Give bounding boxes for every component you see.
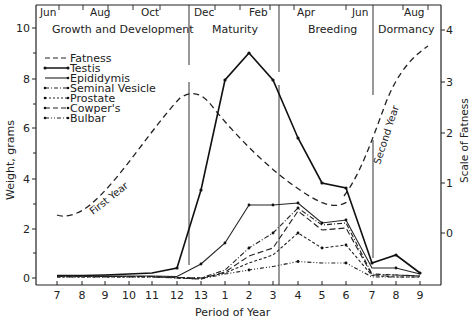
y-axis-label: Weight, grams [4,120,17,200]
phase-label-breeding: Breeding [308,23,357,36]
month-label: Feb [249,6,268,18]
x-tick: 7 [54,289,61,302]
y-tick: 6 [23,122,30,135]
x-tick: 7 [369,289,376,302]
x-tick: 3 [270,289,277,302]
chart: Jun Aug Oct Dec Feb Apr Jun Aug Growth a… [0,0,473,320]
x-tick: 9 [102,289,109,302]
month-label: Aug [404,6,425,18]
phase-dividers [189,5,373,285]
y-tick: 2 [23,223,30,236]
x-tick: 2 [246,289,253,302]
x-tick: 10 [122,289,136,302]
legend-bulbar: Bulbar [70,112,106,125]
x-tick: 8 [79,289,86,302]
x-tick: 13 [194,289,208,302]
y2-tick: 3 [446,76,453,89]
x-tick: 4 [295,289,302,302]
y2-tick: 1 [446,177,453,190]
phase-label-dormancy: Dormancy [378,23,435,36]
y2-tick: 0 [446,227,453,240]
x-axis-label: Period of Year [195,306,271,319]
x-tick: 12 [170,289,184,302]
month-label: Dec [194,6,215,18]
first-year-label: First Year [87,179,130,216]
month-label: Oct [141,6,159,18]
y2-axis-label: Scale of Fatness [458,98,470,183]
x-tick: 11 [145,289,159,302]
y2-tick: 2 [446,127,453,140]
y-tick: 10 [16,22,30,35]
series-epididymis [57,203,420,277]
x-tick: 8 [393,289,400,302]
second-year-label: Second Year [371,103,401,165]
phase-label-maturity: Maturity [212,23,258,36]
y-tick: 0 [23,272,30,285]
y-tick: 4 [23,173,30,186]
x-tick: 5 [319,289,326,302]
x-tick: 9 [417,289,424,302]
phase-label-growth: Growth and Development [52,23,194,36]
y-tick: 8 [23,73,30,86]
x-tick: 6 [343,289,350,302]
month-label: Apr [297,6,316,18]
data-markers [175,51,421,274]
legend: Fatness Testis Epididymis Seminal Vesicl… [44,52,157,125]
month-label: Jun [39,6,56,18]
month-label: Jun [351,6,368,18]
month-label: Aug [90,6,111,18]
y2-tick: 4 [446,24,453,37]
x-tick: 1 [222,289,229,302]
